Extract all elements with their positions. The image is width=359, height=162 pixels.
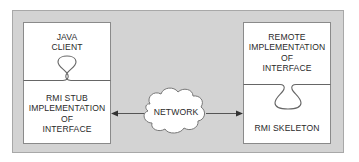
rmi-skeleton-label: RMI SKELETON [243,123,331,133]
remote-implementation-label: REMOTE IMPLEMENTATION OF INTERFACE [243,32,331,74]
network-label: NETWORK [145,107,207,117]
diagram-canvas [0,0,359,162]
rmi-stub-label: RMI STUB IMPLEMENTATION OF INTERFACE [23,93,111,135]
java-client-label: JAVA CLIENT [23,32,111,53]
rmi-architecture-diagram: JAVA CLIENT RMI STUB IMPLEMENTATION OF I… [0,0,359,162]
